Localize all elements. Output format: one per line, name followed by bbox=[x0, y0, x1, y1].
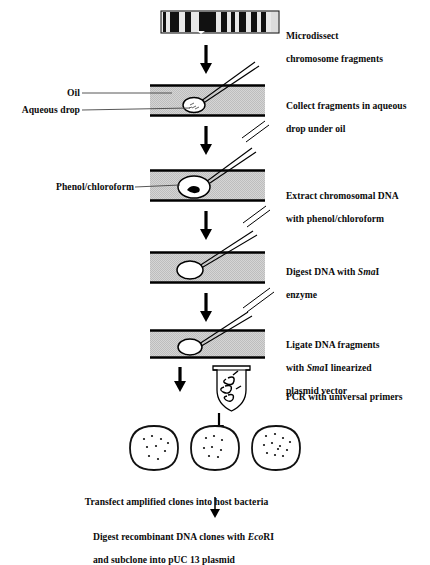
arrow-step4-to-step5 bbox=[200, 293, 212, 322]
step-extract-dna: Extract chromosomal DNA with phenol/chlo… bbox=[281, 178, 399, 224]
label-oil: Oil bbox=[18, 87, 80, 99]
metaphase-chromosome bbox=[161, 11, 279, 34]
arrow-step3-to-step4 bbox=[200, 211, 212, 240]
step-digest-enzyme-roman: I bbox=[376, 266, 380, 277]
step-pcr: PCR with universal primers bbox=[281, 379, 403, 402]
step-extract-line2: with phenol/chloroform bbox=[286, 213, 384, 224]
petri-dish-1 bbox=[130, 426, 178, 470]
bottom-digest-subclone: Digest recombinant DNA clones with EcoRI… bbox=[88, 519, 274, 565]
bottom-transfect: Transfect amplified clones into host bac… bbox=[80, 484, 268, 507]
step-collect-line2: drop under oil bbox=[286, 123, 346, 134]
pcr-tube bbox=[213, 366, 250, 411]
bottom-digest-enzyme-italic: Eco bbox=[248, 531, 264, 542]
discarded-needle-step2 bbox=[242, 121, 269, 142]
step-microdissect-line2: chromosome fragments bbox=[286, 53, 383, 64]
slide-step4 bbox=[150, 231, 265, 283]
bottom-digest-line2: and subclone into pUC 13 plasmid bbox=[93, 554, 235, 565]
petri-dish-3 bbox=[252, 426, 300, 470]
discarded-needle-step3 bbox=[243, 206, 270, 227]
step-microdissect-line1: Microdissect bbox=[286, 30, 339, 41]
step-ligate-line1: Ligate DNA fragments bbox=[286, 339, 380, 350]
arrow-step2-to-step3 bbox=[200, 126, 212, 155]
bottom-transfect-text: Transfect amplified clones into host bac… bbox=[85, 496, 269, 507]
step-digest-enzyme-italic: Sma bbox=[358, 266, 376, 277]
step-microdissect: Microdissect chromosome fragments bbox=[281, 18, 383, 64]
discarded-needle-step4 bbox=[243, 288, 274, 312]
step-extract-line1: Extract chromosomal DNA bbox=[286, 190, 399, 201]
step-collect-line1: Collect fragments in aqueous bbox=[286, 100, 407, 111]
step-pcr-line1: PCR with universal primers bbox=[286, 391, 403, 402]
slide-step3 bbox=[150, 148, 265, 201]
step-collect-fragments: Collect fragments in aqueous drop under … bbox=[281, 88, 406, 134]
bottom-digest-pre: Digest recombinant DNA clones with bbox=[93, 531, 248, 542]
step-digest-pre: Digest DNA with bbox=[286, 266, 358, 277]
arrow-step5-to-pcr bbox=[174, 367, 186, 392]
step-digest-line2: enzyme bbox=[286, 289, 317, 300]
step-digest-smai: Digest DNA with SmaI enzyme bbox=[281, 254, 379, 300]
step-ligate-line2-pre: with bbox=[286, 362, 307, 373]
petri-dish-2 bbox=[191, 426, 239, 470]
arrow-step1-to-step2 bbox=[200, 45, 212, 74]
bottom-digest-enzyme-roman: RI bbox=[263, 531, 274, 542]
label-aqueous-drop: Aqueous drop bbox=[8, 104, 80, 116]
label-phenol-chloroform: Phenol/chloroform bbox=[22, 181, 134, 193]
step-ligate-enzyme-italic: Sma bbox=[307, 362, 325, 373]
step-ligate-line2-post: I linearized bbox=[324, 362, 371, 373]
